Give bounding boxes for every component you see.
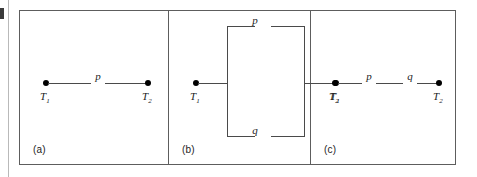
wire-bottom-right-segment (271, 136, 305, 137)
figure-frame: p T1 T2 (a) p q T1 (19, 10, 456, 165)
wire-lead-left (198, 83, 228, 84)
wire-top-right-segment (271, 26, 305, 27)
element-label-p: p (88, 71, 108, 82)
element-label-p: p (359, 71, 379, 82)
element-label-p: p (245, 15, 265, 26)
element-label-q: q (400, 71, 420, 82)
scan-artifact-line (8, 0, 9, 177)
wire-left-segment (48, 83, 91, 84)
wire-bottom-left-segment (227, 136, 255, 137)
wire-right-segment (105, 83, 148, 84)
terminal-label-t2: T2 (142, 91, 152, 105)
panel-b: p q T1 T2 (b) (168, 11, 311, 164)
panel-a: p T1 T2 (a) (20, 11, 168, 164)
terminal-label-t1: T1 (330, 91, 340, 105)
wire-top-left-segment (227, 26, 255, 27)
panel-c: p q T1 T2 (c) (311, 11, 455, 164)
terminal-node-t2 (436, 80, 442, 86)
scan-artifact-mark (0, 8, 4, 19)
panel-caption-c: (c) (324, 145, 336, 155)
terminal-label-t1: T1 (190, 91, 200, 105)
element-label-q: q (245, 125, 265, 136)
terminal-node-t2 (145, 80, 151, 86)
terminal-label-t2: T2 (433, 91, 443, 105)
panel-caption-b: (b) (182, 145, 195, 155)
wire-bus-right (304, 26, 305, 136)
figure-root: p T1 T2 (a) p q T1 (0, 0, 477, 177)
wire-bus-left (227, 26, 228, 136)
wire-segment-2 (376, 83, 403, 84)
wire-segment-1 (338, 83, 362, 84)
panel-caption-a: (a) (33, 145, 46, 155)
terminal-label-t1: T1 (40, 91, 50, 105)
